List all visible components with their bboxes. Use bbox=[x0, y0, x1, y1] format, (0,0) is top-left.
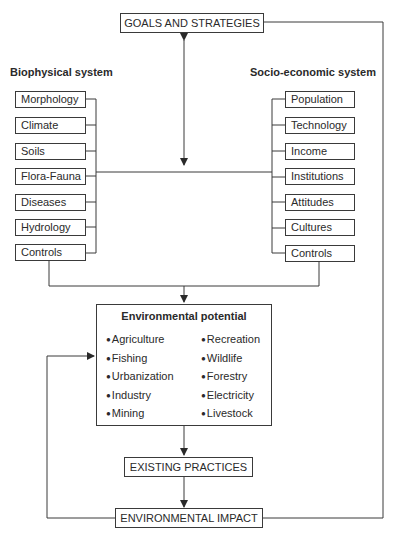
bio-item-climate: Climate bbox=[15, 117, 86, 134]
socio-item-income: Income bbox=[285, 143, 355, 160]
socio-item-controls: Controls bbox=[285, 245, 355, 262]
potential-item: Forestry bbox=[201, 368, 260, 387]
bio-item-soils: Soils bbox=[15, 143, 86, 160]
potential-list-right: Recreation Wildlife Forestry Electricity… bbox=[201, 331, 260, 424]
socio-item-cultures: Cultures bbox=[285, 219, 355, 236]
bio-item-morphology: Morphology bbox=[15, 91, 86, 108]
potential-item: Industry bbox=[106, 387, 174, 406]
environmental-potential-box: Environmental potential Agriculture Fish… bbox=[96, 304, 272, 426]
biophysical-title: Biophysical system bbox=[10, 66, 113, 78]
socio-item-population: Population bbox=[285, 91, 355, 108]
socio-item-attitudes: Attitudes bbox=[285, 194, 355, 211]
existing-practices-box: EXISTING PRACTICES bbox=[124, 457, 253, 477]
bio-item-hydrology: Hydrology bbox=[15, 219, 86, 236]
potential-item: Urbanization bbox=[106, 368, 174, 387]
environmental-potential-title: Environmental potential bbox=[97, 310, 271, 322]
bio-item-diseases: Diseases bbox=[15, 194, 86, 211]
potential-item: Wildlife bbox=[201, 350, 260, 369]
potential-item: Agriculture bbox=[106, 331, 174, 350]
environmental-impact-box: ENVIRONMENTAL IMPACT bbox=[115, 508, 263, 528]
potential-item: Recreation bbox=[201, 331, 260, 350]
socio-item-institutions: Institutions bbox=[285, 168, 355, 185]
potential-item: Fishing bbox=[106, 350, 174, 369]
potential-item: Livestock bbox=[201, 405, 260, 424]
bio-item-controls: Controls bbox=[15, 244, 86, 261]
potential-list-left: Agriculture Fishing Urbanization Industr… bbox=[106, 331, 174, 424]
socio-economic-title: Socio-economic system bbox=[250, 66, 376, 78]
bio-item-flora-fauna: Flora-Fauna bbox=[15, 168, 86, 185]
goals-strategies-box: GOALS AND STRATEGIES bbox=[120, 13, 264, 33]
connector-lines bbox=[0, 0, 398, 536]
socio-item-technology: Technology bbox=[285, 117, 355, 134]
potential-item: Electricity bbox=[201, 387, 260, 406]
potential-item: Mining bbox=[106, 405, 174, 424]
